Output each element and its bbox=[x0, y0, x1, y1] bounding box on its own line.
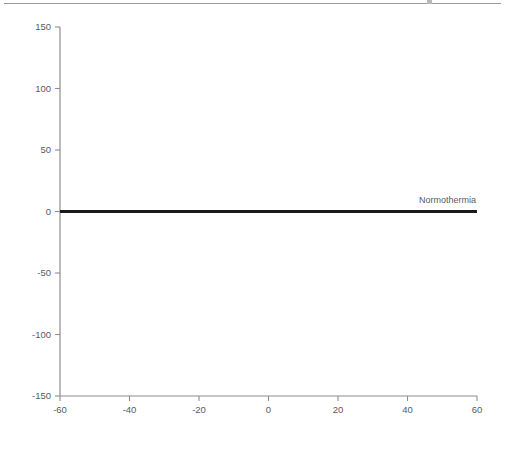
x-tick-label: 0 bbox=[266, 404, 271, 415]
chart-canvas: 150100500-50-100-150 -60-40-200204060 No… bbox=[0, 0, 505, 449]
x-tick-label: 20 bbox=[333, 404, 344, 415]
x-tick-label: -60 bbox=[53, 404, 67, 415]
x-tick-label: 60 bbox=[472, 404, 483, 415]
y-tick-label: -50 bbox=[37, 267, 51, 278]
y-tick-label: -150 bbox=[32, 390, 51, 401]
y-tick-label: 100 bbox=[35, 83, 51, 94]
x-tick-label: -20 bbox=[192, 404, 206, 415]
normothermia-label: Normothermia bbox=[419, 195, 476, 205]
page-top-speck bbox=[427, 0, 432, 4]
x-tick-label: -40 bbox=[123, 404, 137, 415]
y-tick-label: 150 bbox=[35, 21, 51, 32]
x-axis-tick-labels: -60-40-200204060 bbox=[53, 404, 482, 415]
y-axis-tick-labels: 150100500-50-100-150 bbox=[32, 21, 51, 401]
y-tick-label: 50 bbox=[40, 144, 51, 155]
y-axis-ticks bbox=[55, 27, 60, 396]
y-tick-label: -100 bbox=[32, 329, 51, 340]
figure-panel: 150100500-50-100-150 -60-40-200204060 No… bbox=[0, 0, 505, 449]
x-axis-ticks bbox=[60, 396, 477, 401]
y-tick-label: 0 bbox=[46, 206, 51, 217]
x-tick-label: 40 bbox=[402, 404, 413, 415]
